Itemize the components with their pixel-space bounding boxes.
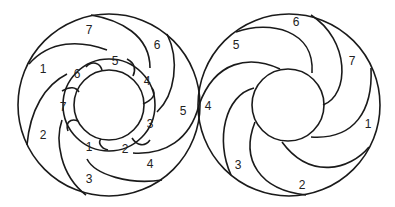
right-label: 3: [235, 158, 242, 172]
left-hub-circle: [74, 70, 144, 140]
left-inner-label: 1: [86, 140, 93, 154]
right-wheel: [198, 14, 380, 196]
left-inner-arm: [127, 59, 135, 76]
left-outer-label: 2: [40, 128, 47, 142]
right-label: 2: [299, 178, 306, 192]
left-inner-label: 7: [60, 100, 67, 114]
right-outer-circle: [198, 14, 380, 196]
left-wheel: [18, 14, 200, 196]
left-inner-label: 4: [144, 74, 151, 88]
left-outer-label: 4: [147, 157, 154, 171]
left-outer-label: 6: [154, 38, 161, 52]
left-outer-circle: [18, 14, 200, 196]
left-inner-arm: [67, 120, 78, 131]
left-outer-label: 7: [86, 23, 93, 37]
pinwheel-diagram: 7 6 1 5 2 4 3 5 6 4 7 3 1 2 6 5 7 4 1 3 …: [0, 0, 395, 207]
right-label: 6: [293, 15, 300, 29]
left-outer-label: 5: [180, 104, 187, 118]
left-inner-label: 3: [147, 117, 154, 131]
left-inner-arm: [86, 63, 102, 70]
left-inner-label: 5: [112, 54, 119, 68]
right-label: 5: [233, 38, 240, 52]
right-label: 1: [365, 117, 372, 131]
right-label: 7: [349, 54, 356, 68]
left-inner-label: 2: [122, 142, 129, 156]
left-outer-label: 3: [86, 172, 93, 186]
left-outer-label: 1: [40, 62, 47, 76]
right-label: 4: [205, 99, 212, 113]
right-arm: [282, 142, 369, 167]
right-hub-circle: [252, 69, 324, 141]
left-inner-label: 6: [74, 67, 81, 81]
